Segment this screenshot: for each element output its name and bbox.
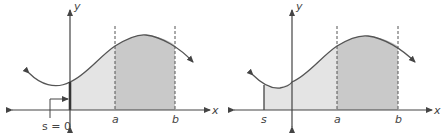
- left-y-label: y: [73, 0, 81, 13]
- right-panel: y x s a b: [234, 0, 441, 127]
- right-mark-s: s: [261, 113, 267, 126]
- right-mark-a: a: [334, 113, 341, 126]
- left-mark-a: a: [112, 113, 119, 126]
- right-mark-b: b: [395, 113, 402, 126]
- region-a-to-b: [337, 36, 398, 110]
- right-y-label: y: [295, 0, 303, 13]
- left-x-label: x: [211, 104, 219, 117]
- left-panel: y x a b s = 0: [12, 0, 219, 133]
- left-mark-b: b: [172, 113, 179, 126]
- right-x-label: x: [433, 104, 441, 117]
- region-a-to-b: [115, 35, 175, 110]
- s-zero-label: s = 0: [42, 120, 71, 133]
- area-function-diagram: y x a b s = 0 y x s a b: [0, 0, 444, 137]
- s-zero-callout-arrow: [50, 99, 68, 118]
